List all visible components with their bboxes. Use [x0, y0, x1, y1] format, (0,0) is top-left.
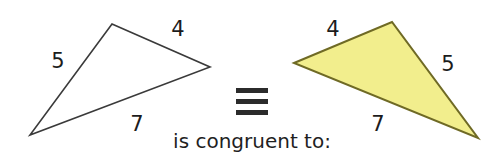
left-triangle-side-label-5: 5: [51, 49, 64, 73]
congruence-symbol-icon: [236, 88, 268, 115]
congruent-caption-label: is congruent to:: [173, 129, 331, 153]
right-triangle-side-label-5: 5: [441, 52, 454, 76]
right-triangle-group: 4 5 7: [294, 17, 478, 138]
left-triangle-side-label-4: 4: [171, 17, 184, 41]
congruence-bar-top: [236, 88, 268, 93]
congruence-bar-middle: [236, 99, 268, 104]
congruent-triangles-figure: 5 4 7 is congruent to: 4 5 7: [0, 0, 495, 162]
right-triangle-side-label-4: 4: [326, 17, 339, 41]
left-triangle-group: 5 4 7: [30, 17, 210, 136]
right-triangle-shape: [294, 22, 478, 138]
right-triangle-side-label-7: 7: [371, 112, 384, 136]
left-triangle-side-label-7: 7: [130, 112, 143, 136]
figure-canvas: 5 4 7 is congruent to: 4 5 7: [0, 0, 495, 162]
congruence-bar-bottom: [236, 110, 268, 115]
